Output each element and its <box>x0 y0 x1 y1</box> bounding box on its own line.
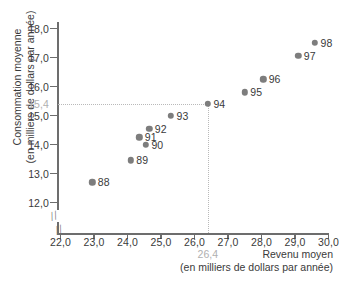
y-axis-title-line1: Consommation moyenne <box>11 0 24 175</box>
y-tick <box>50 173 57 174</box>
x-axis-title: Revenu moyen (en milliers de dollars par… <box>115 248 333 274</box>
data-point-label: 97 <box>304 50 316 62</box>
x-tick-label: 24,0 <box>117 236 138 248</box>
x-tick-label: 30,0 <box>318 236 339 248</box>
y-reference-label: 15,4 <box>28 98 49 110</box>
data-point-label: 95 <box>250 86 262 98</box>
data-point[interactable] <box>260 76 266 82</box>
vertical-reference-line <box>208 104 209 233</box>
y-tick-label: 13,0 <box>28 168 49 180</box>
y-tick <box>50 144 57 145</box>
data-point-label: 92 <box>155 123 167 135</box>
y-tick-label: 18,0 <box>28 23 49 35</box>
y-tick <box>50 202 57 203</box>
y-tick <box>50 86 57 87</box>
y-tick-label: 16,0 <box>28 81 49 93</box>
y-axis-line <box>57 22 59 210</box>
x-reference-label: 26,4 <box>197 248 218 260</box>
data-point[interactable] <box>205 101 211 107</box>
x-tick-label: 22,0 <box>50 236 71 248</box>
data-point[interactable] <box>312 40 318 46</box>
y-tick <box>50 28 57 29</box>
data-point-label: 94 <box>213 98 225 110</box>
x-tick-label: 25,0 <box>151 236 172 248</box>
data-point-label: 93 <box>177 110 189 122</box>
y-tick-label: 15,0 <box>28 110 49 122</box>
data-point[interactable] <box>128 157 134 163</box>
data-point[interactable] <box>136 134 142 140</box>
x-tick-label: 27,0 <box>218 236 239 248</box>
y-tick <box>50 57 57 58</box>
y-tick-label: 12,0 <box>28 197 49 209</box>
data-point[interactable] <box>242 89 248 95</box>
y-tick <box>50 115 57 116</box>
x-tick-label: 26,0 <box>184 236 205 248</box>
data-point[interactable] <box>168 112 174 118</box>
data-point[interactable] <box>89 179 95 185</box>
x-axis-break-icon: // <box>53 222 64 237</box>
data-point[interactable] <box>295 53 301 59</box>
y-tick-label: 14,0 <box>28 139 49 151</box>
x-tick-label: 23,0 <box>84 236 105 248</box>
y-tick-label: 17,0 <box>28 52 49 64</box>
data-point-label: 96 <box>269 73 281 85</box>
horizontal-reference-line <box>58 104 208 105</box>
data-point-label: 98 <box>321 37 333 49</box>
x-tick-label: 29,0 <box>285 236 306 248</box>
x-axis-title-line1: Revenu moyen <box>115 248 333 261</box>
data-point-label: 88 <box>98 176 110 188</box>
data-point-label: 89 <box>136 154 148 166</box>
x-tick-label: 28,0 <box>251 236 272 248</box>
x-axis-title-line2: (en milliers de dollars par année) <box>115 261 333 274</box>
